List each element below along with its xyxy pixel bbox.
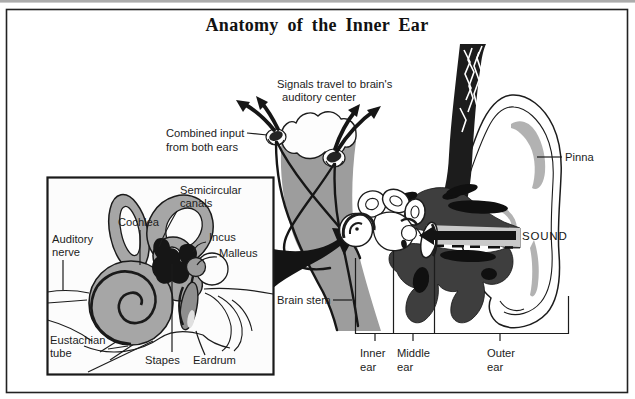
diagram-canvas: Anatomy of the Inner Ear Signals travel …: [0, 0, 635, 399]
scan-artifact-strip: [0, 0, 635, 3]
eardrum-label: Eardrum: [193, 354, 236, 366]
inner-ear-label-line2: ear: [360, 361, 376, 373]
outer-ear-label-line2: ear: [487, 361, 503, 373]
combined-input-label-line1: Combined input: [166, 127, 245, 139]
figure-title: Anatomy of the Inner Ear: [206, 15, 429, 35]
combined-input-label-line2: from both ears: [166, 141, 239, 153]
figure-anatomy-of-inner-ear: Anatomy of the Inner Ear Signals travel …: [0, 0, 635, 399]
sound-label: SOUND: [522, 230, 568, 242]
auditory-nerve-label-line1: Auditory: [52, 233, 93, 245]
outer-ear-label-line1: Outer: [487, 347, 515, 359]
malleus-label: Malleus: [219, 247, 258, 259]
inner-ear-label-line1: Inner: [360, 347, 386, 359]
auditory-nerve-label-line2: nerve: [52, 246, 80, 258]
middle-ear-label-line2: ear: [397, 361, 413, 373]
eustachian-label-line2: tube: [50, 347, 72, 359]
semicircular-label-line2: canals: [180, 197, 213, 209]
middle-ear-label-line1: Middle: [397, 347, 430, 359]
brainstem-label: Brain stem: [277, 294, 330, 306]
signals-label-line2: auditory center: [282, 91, 356, 103]
incus-label: Incus: [209, 231, 236, 243]
semicircular-label-line1: Semicircular: [180, 184, 242, 196]
cochlea-label: Cochlea: [118, 216, 160, 228]
pinna-label: Pinna: [565, 151, 594, 163]
stapes-label: Stapes: [145, 354, 180, 366]
signals-label-line1: Signals travel to brain's: [277, 78, 393, 90]
eustachian-label-line1: Eustachian: [50, 334, 105, 346]
